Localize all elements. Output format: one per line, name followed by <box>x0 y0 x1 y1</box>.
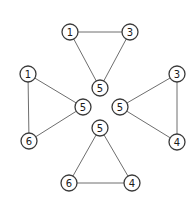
edge-bottom-4-5 <box>100 128 132 183</box>
node-bottom-5: 5 <box>92 120 108 136</box>
node-label: 1 <box>25 69 31 80</box>
node-left-1: 1 <box>20 66 36 82</box>
edge-top-3-5 <box>100 32 130 88</box>
node-top-5: 5 <box>92 80 108 96</box>
node-left-5: 5 <box>75 99 91 115</box>
node-label: 1 <box>67 27 73 38</box>
node-right-5: 5 <box>112 99 128 115</box>
node-left-6: 6 <box>21 133 37 149</box>
triangle-diagram: 135156354564 <box>0 0 196 209</box>
edge-bottom-5-6 <box>69 128 100 183</box>
node-label: 3 <box>174 69 180 80</box>
nodes-layer: 135156354564 <box>20 24 185 191</box>
edge-top-5-1 <box>70 32 100 88</box>
node-bottom-4: 4 <box>124 175 140 191</box>
node-top-3: 3 <box>122 24 138 40</box>
edges-layer <box>28 32 177 183</box>
edge-right-3-5 <box>120 74 177 107</box>
node-label: 4 <box>129 178 135 189</box>
edge-left-5-6 <box>29 107 83 141</box>
node-label: 5 <box>117 102 123 113</box>
node-label: 3 <box>127 27 133 38</box>
node-top-1: 1 <box>62 24 78 40</box>
edge-left-6-1 <box>28 74 29 141</box>
node-label: 5 <box>97 83 103 94</box>
diagram-svg: 135156354564 <box>0 0 196 209</box>
edge-right-5-4 <box>120 107 177 142</box>
node-label: 5 <box>97 123 103 134</box>
edge-left-1-5 <box>28 74 83 107</box>
node-right-4: 4 <box>169 134 185 150</box>
node-right-3: 3 <box>169 66 185 82</box>
node-bottom-6: 6 <box>61 175 77 191</box>
node-label: 4 <box>174 137 180 148</box>
node-label: 5 <box>80 102 86 113</box>
node-label: 6 <box>66 178 72 189</box>
node-label: 6 <box>26 136 32 147</box>
